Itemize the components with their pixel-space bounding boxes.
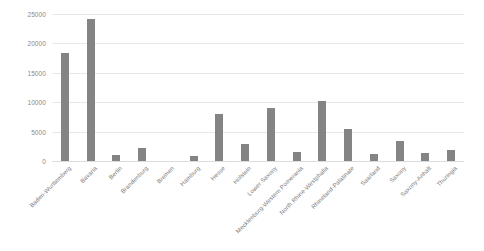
bar[interactable]: [190, 156, 198, 161]
x-axis-tick-label: Thuringia: [436, 165, 459, 188]
x-axis-tick-label: Holstein: [232, 165, 252, 185]
bar-slot: [155, 14, 181, 161]
bar-slot: [335, 14, 361, 161]
bar[interactable]: [293, 152, 301, 161]
bar-chart: 0500010000150002000025000 Baden-Wurttemb…: [0, 0, 484, 251]
y-axis-tick-label: 5000: [31, 128, 46, 135]
gridline: [52, 161, 464, 162]
bar[interactable]: [318, 101, 326, 161]
x-axis-tick-label: Saxony: [388, 165, 407, 184]
y-axis-tick-label: 10000: [27, 99, 46, 106]
bar-slot: [104, 14, 130, 161]
bar-slot: [207, 14, 233, 161]
bar-slot: [232, 14, 258, 161]
plot-area: 0500010000150002000025000: [52, 14, 464, 161]
bar-slot: [129, 14, 155, 161]
bar-slot: [438, 14, 464, 161]
x-axis-tick-label: Baden-Wurttemberg: [29, 165, 73, 209]
bar[interactable]: [267, 108, 275, 161]
bar[interactable]: [61, 53, 69, 161]
bar[interactable]: [138, 148, 146, 161]
x-axis-tick-label: Saarland: [359, 165, 381, 187]
y-axis-tick-label: 25000: [27, 11, 46, 18]
bar[interactable]: [112, 155, 120, 161]
y-axis-tick-label: 0: [42, 158, 46, 165]
x-axis-tick-label: Bremen: [156, 165, 176, 185]
x-axis-tick-label: Brandenburg: [120, 165, 150, 195]
bar-slot: [413, 14, 439, 161]
bar-slot: [258, 14, 284, 161]
x-axis-tick-label: Berlin: [108, 165, 124, 181]
bar[interactable]: [215, 114, 223, 161]
y-axis-tick-label: 20000: [27, 40, 46, 47]
bar[interactable]: [421, 153, 429, 161]
bar-slot: [52, 14, 78, 161]
x-axis-tick-label: Hamburg: [179, 165, 201, 187]
y-axis-tick-label: 15000: [27, 69, 46, 76]
bars-group: [52, 14, 464, 161]
bar-slot: [284, 14, 310, 161]
x-axis-tick-label: North Rhine-Westphalia: [279, 165, 330, 216]
bar-slot: [387, 14, 413, 161]
x-axis-tick-label: Hesse: [210, 165, 227, 182]
bar-slot: [310, 14, 336, 161]
bar[interactable]: [344, 129, 352, 161]
bar-slot: [78, 14, 104, 161]
x-axis-tick-labels: Baden-WurttembergBavariaBerlinBrandenbur…: [52, 163, 464, 249]
bar-slot: [361, 14, 387, 161]
bar[interactable]: [447, 150, 455, 161]
bar-slot: [181, 14, 207, 161]
bar[interactable]: [396, 141, 404, 161]
bar[interactable]: [370, 154, 378, 161]
bar[interactable]: [87, 19, 95, 161]
x-axis-tick-label: Bavaria: [79, 165, 98, 184]
bar[interactable]: [241, 144, 249, 161]
